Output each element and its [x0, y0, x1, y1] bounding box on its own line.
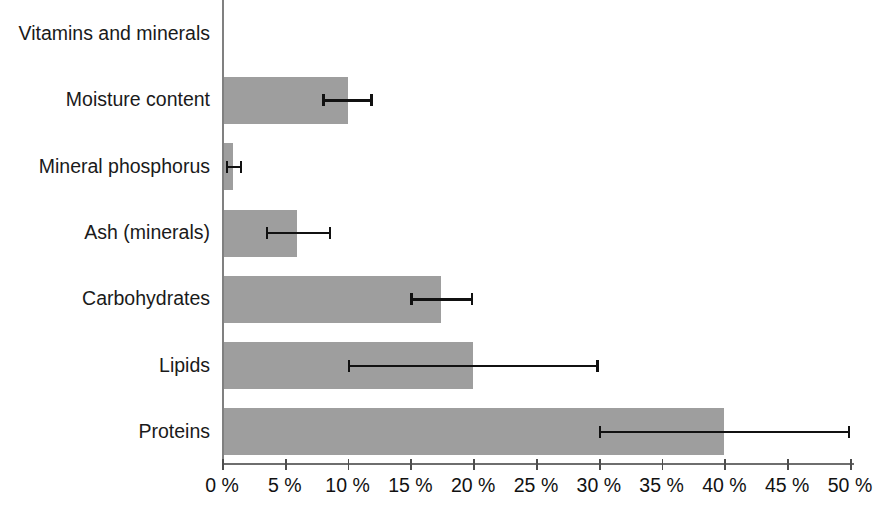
error-bar [599, 426, 850, 438]
error-bar-cap-low [348, 360, 350, 372]
error-bar-cap-high [596, 360, 598, 372]
error-bar [348, 360, 599, 372]
error-bar-cap-high [471, 293, 473, 305]
x-axis-tick [599, 459, 601, 470]
error-bar-line [599, 431, 850, 433]
error-bar [226, 161, 242, 173]
x-axis-tick [724, 459, 726, 470]
error-bar-line [410, 298, 473, 300]
y-axis-line [222, 0, 224, 464]
error-bar-line [322, 99, 372, 101]
category-label: Moisture content [0, 90, 210, 110]
x-axis-tick-label: 0 % [205, 476, 239, 496]
bar [222, 276, 441, 323]
x-axis-tick-label: 15 % [388, 476, 432, 496]
error-bar-line [348, 365, 599, 367]
error-bar-cap-low [226, 161, 228, 173]
x-axis-tick [348, 459, 350, 470]
category-label: Mineral phosphorus [0, 157, 210, 177]
category-label: Carbohydrates [0, 289, 210, 309]
x-axis-tick [473, 459, 475, 470]
category-label: Lipids [0, 356, 210, 376]
bar-chart: Vitamins and mineralsMoisture contentMin… [0, 0, 881, 507]
x-axis-tick-label: 30 % [577, 476, 621, 496]
x-axis-tick [222, 459, 224, 470]
error-bar [410, 293, 473, 305]
error-bar-cap-high [240, 161, 242, 173]
x-axis-tick-label: 20 % [451, 476, 495, 496]
plot-area [222, 0, 881, 464]
error-bar-cap-low [266, 227, 268, 239]
x-axis-tick [662, 459, 664, 470]
category-label: Ash (minerals) [0, 223, 210, 243]
error-bar-cap-high [329, 227, 331, 239]
error-bar [322, 94, 372, 106]
x-axis-line [222, 463, 854, 465]
x-axis-tick-label: 45 % [765, 476, 809, 496]
x-axis-tick-label: 5 % [268, 476, 302, 496]
error-bar-cap-low [322, 94, 324, 106]
error-bar-cap-high [370, 94, 372, 106]
error-bar [266, 227, 331, 239]
category-label: Proteins [0, 422, 210, 442]
x-axis-tick-label: 35 % [639, 476, 683, 496]
category-label: Vitamins and minerals [0, 24, 210, 44]
x-axis-tick [536, 459, 538, 470]
error-bar-cap-low [599, 426, 601, 438]
x-axis-tick [285, 459, 287, 470]
x-axis-tick [410, 459, 412, 470]
x-axis-tick [787, 459, 789, 470]
error-bar-cap-low [410, 293, 412, 305]
x-axis-tick-label: 25 % [514, 476, 558, 496]
x-axis-tick-label: 10 % [325, 476, 369, 496]
x-axis-tick-label: 50 % [828, 476, 872, 496]
error-bar-line [266, 232, 331, 234]
x-axis-tick-label: 40 % [702, 476, 746, 496]
x-axis-tick [850, 459, 852, 470]
error-bar-cap-high [848, 426, 850, 438]
